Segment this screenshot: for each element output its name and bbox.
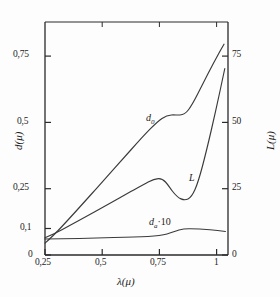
curve-label-da-suffix: ·10 <box>158 216 171 227</box>
y-right-axis-title: L(μ) <box>264 131 276 150</box>
y-right-ticks <box>222 56 228 255</box>
y-right-tick-0: 0 <box>232 249 237 259</box>
curve-d0 <box>45 44 224 243</box>
curve-da-x10 <box>45 229 226 239</box>
y-left-tick-0p1: 0,1 <box>20 222 31 232</box>
x-tick-0p5: 0,5 <box>95 257 106 267</box>
y-left-axis-title: d(μ) <box>12 132 24 150</box>
y-right-tick-50: 50 <box>232 116 241 126</box>
x-ticks <box>45 249 217 255</box>
curve-label-da: da·10 <box>149 216 171 230</box>
x-tick-0p25: 0,25 <box>35 257 51 267</box>
y-left-tick-0: 0 <box>28 249 33 259</box>
x-axis-title: λ(μ) <box>117 275 135 287</box>
curve-label-d0: d0 <box>146 112 155 126</box>
y-left-tick-0p75: 0,75 <box>13 49 29 59</box>
figure-container: 0 0,1 0,25 0,5 0,75 0 25 50 75 0,25 0,5 … <box>0 0 280 297</box>
y-left-tick-0p25: 0,25 <box>13 182 29 192</box>
x-tick-0p75: 0,75 <box>150 257 166 267</box>
curve-label-L: L <box>189 172 195 183</box>
y-left-ticks <box>45 56 51 255</box>
y-right-tick-25: 25 <box>232 182 241 192</box>
curve-label-d0-sub: 0 <box>151 118 155 126</box>
axis-frame <box>45 22 228 255</box>
chart-canvas <box>0 0 280 297</box>
x-ticks-top <box>102 22 216 27</box>
y-left-tick-0p5: 0,5 <box>17 116 28 126</box>
y-right-tick-75: 75 <box>232 49 241 59</box>
x-tick-1: 1 <box>214 257 219 267</box>
